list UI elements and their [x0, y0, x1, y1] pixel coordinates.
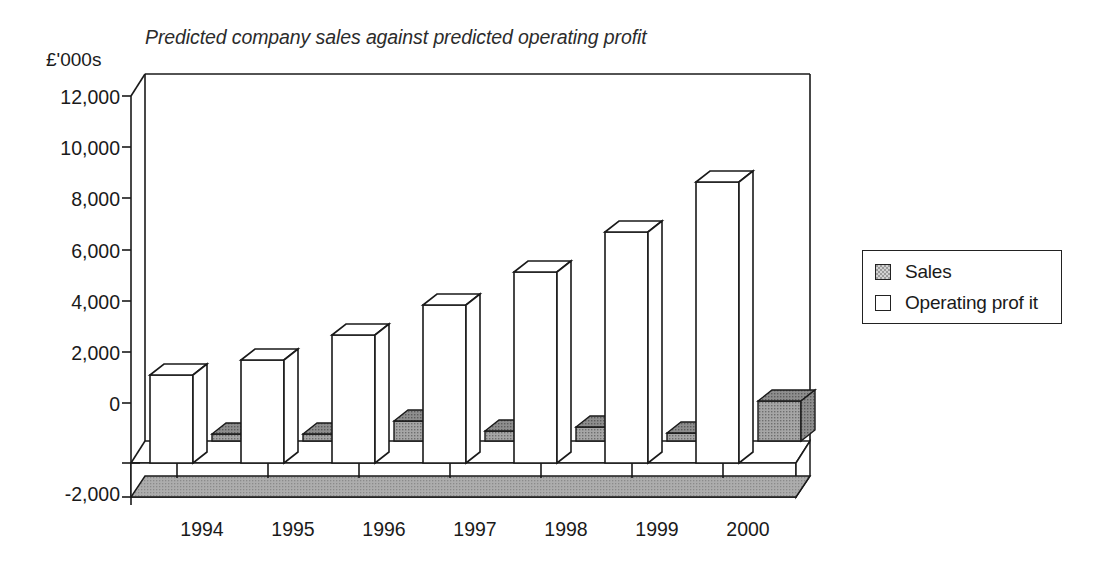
legend-swatch-operating-profit-icon [875, 295, 891, 311]
legend-label-sales: Sales [905, 261, 952, 283]
legend-label-operating-profit: Operating prof it [905, 292, 1038, 314]
bar-operating-profit-1996 [332, 324, 389, 463]
bar-operating-profit-1997 [423, 294, 480, 463]
bar-operating-profit-1995 [241, 349, 298, 463]
chart-figure: Predicted company sales against predicte… [0, 0, 1101, 569]
bar-operating-profit-1994 [150, 364, 207, 463]
bar-operating-profit-2000 [696, 171, 753, 463]
legend-item-sales: Sales [875, 261, 952, 283]
legend-item-operating-profit: Operating prof it [875, 292, 1038, 314]
bar-group-2000 [696, 171, 815, 463]
bar-operating-profit-1998 [514, 261, 571, 463]
legend-swatch-sales-icon [875, 264, 891, 280]
bar-sales-2000 [758, 390, 815, 441]
chart-legend: Sales Operating prof it [862, 250, 1062, 324]
bar-operating-profit-1999 [605, 221, 662, 463]
